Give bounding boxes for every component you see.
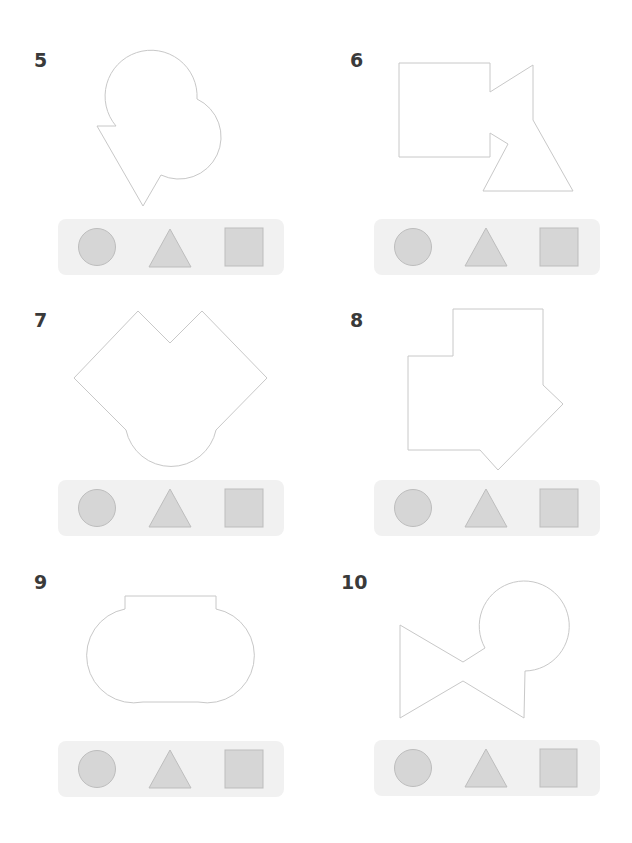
puzzle-10-answer-bar — [374, 740, 600, 796]
circle-option[interactable] — [79, 229, 116, 266]
circle-option[interactable] — [395, 490, 432, 527]
puzzle-7-answer-bar — [58, 480, 284, 536]
puzzle-8-composite-shape — [408, 309, 563, 470]
square-option[interactable] — [540, 489, 578, 527]
puzzle-9-composite-shape — [87, 596, 255, 703]
triangle-option[interactable] — [465, 228, 507, 266]
puzzle-8-answer-bar — [374, 480, 600, 536]
triangle-option[interactable] — [149, 489, 191, 527]
puzzle-5-answer-bar — [58, 219, 284, 275]
square-option[interactable] — [225, 750, 263, 788]
puzzle-6-composite-shape — [399, 63, 573, 191]
circle-option[interactable] — [79, 490, 116, 527]
puzzle-5-composite-shape — [97, 50, 221, 206]
puzzle-10-composite-shape — [400, 581, 569, 718]
triangle-option[interactable] — [465, 489, 507, 527]
square-option[interactable] — [225, 228, 263, 266]
puzzle-7-composite-shape — [74, 311, 267, 466]
triangle-option[interactable] — [465, 749, 507, 787]
composite-shapes — [0, 0, 632, 843]
circle-option[interactable] — [395, 750, 432, 787]
puzzle-9-answer-bar — [58, 741, 284, 797]
square-option[interactable] — [540, 228, 578, 266]
circle-option[interactable] — [395, 229, 432, 266]
triangle-option[interactable] — [149, 750, 191, 788]
triangle-option[interactable] — [149, 229, 191, 267]
square-option[interactable] — [540, 749, 577, 787]
square-option[interactable] — [225, 489, 263, 527]
puzzle-6-answer-bar — [374, 219, 600, 275]
circle-option[interactable] — [79, 751, 116, 788]
